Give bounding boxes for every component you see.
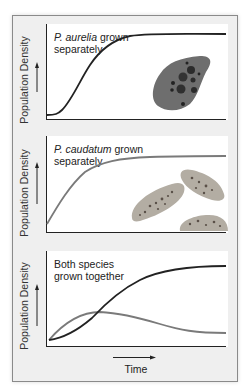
panel-title: P. caudatum grown [54, 143, 143, 155]
panel-title: Both species [54, 258, 114, 270]
y-axis-arrowhead-icon [35, 284, 39, 290]
y-axis-arrowhead-icon [35, 162, 39, 168]
y-axis-arrowhead-icon [35, 62, 39, 68]
y-axis-label: Population Density [18, 261, 30, 349]
x-axis-label: Time [125, 363, 148, 375]
y-axis-label: Population Density [18, 148, 30, 236]
panel-title-line2: grown together [54, 270, 125, 282]
y-axis-label: Population Density [18, 35, 30, 123]
x-axis-arrowhead-icon [150, 356, 156, 360]
panel-title-line2: separately [54, 43, 103, 55]
panel-title-line2: separately [54, 155, 103, 167]
figure-svg: Population Density P. aurelia grown sepa… [0, 0, 243, 392]
